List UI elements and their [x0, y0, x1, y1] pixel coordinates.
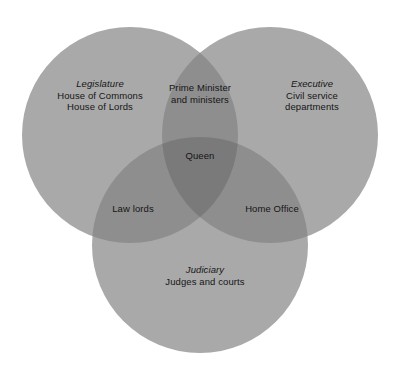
venn-diagram: Legislature House of Commons House of Lo…	[0, 0, 398, 368]
label-judiciary-title: Judiciary	[135, 264, 275, 276]
venn-circles-graphic	[0, 0, 398, 368]
label-law-lords: Law lords	[78, 203, 188, 215]
label-prime-minister: Prime Minister and ministers	[140, 82, 260, 105]
label-queen: Queen	[155, 150, 245, 162]
label-prime-minister-line-2: and ministers	[140, 94, 260, 106]
label-prime-minister-line-1: Prime Minister	[140, 82, 260, 94]
label-queen-line-1: Queen	[155, 150, 245, 162]
label-law-lords-line-1: Law lords	[78, 203, 188, 215]
label-judiciary-line-1: Judges and courts	[135, 276, 275, 288]
label-judiciary: Judiciary Judges and courts	[135, 264, 275, 287]
label-home-office-line-1: Home Office	[212, 203, 332, 215]
label-home-office: Home Office	[212, 203, 332, 215]
